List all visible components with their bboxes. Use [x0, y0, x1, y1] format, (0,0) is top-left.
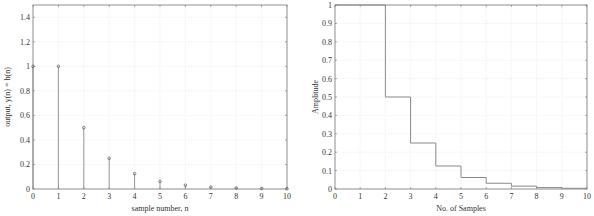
y-tick-label: 0.8: [322, 38, 332, 47]
x-tick-label: 10: [583, 192, 591, 201]
x-tick-label: 4: [133, 192, 137, 201]
x-tick-label: 6: [183, 192, 187, 201]
y-tick-label: 0.8: [20, 87, 30, 96]
x-tick-label: 8: [535, 192, 539, 201]
y-tick-label: 1.2: [20, 38, 30, 47]
y-tick-label: 0.4: [322, 111, 332, 120]
y-tick-label: 1: [328, 1, 332, 10]
x-tick-label: 5: [158, 192, 162, 201]
y-tick-label: 1.4: [20, 13, 30, 22]
y-tick-label: 0: [328, 185, 332, 194]
y-tick-label: 0.7: [322, 56, 332, 65]
x-tick-label: 0: [333, 192, 337, 201]
x-tick-label: 7: [209, 192, 213, 201]
x-tick-label: 3: [107, 192, 111, 201]
impulse-response-chart: 01234567891000.20.40.60.811.21.4sample n…: [3, 5, 291, 213]
y-tick-label: 0.4: [20, 136, 30, 145]
y-axis-label: output, y(n) = h(n): [3, 67, 12, 127]
y-tick-label: 1: [26, 62, 30, 71]
x-tick-label: 2: [82, 192, 86, 201]
charts-canvas: 01234567891000.20.40.60.811.21.4sample n…: [0, 0, 594, 216]
stem-marker: [57, 65, 60, 68]
x-axis-label: No. of Samples: [436, 204, 486, 213]
x-tick-label: 1: [358, 192, 362, 201]
x-tick-label: 9: [560, 192, 564, 201]
y-tick-label: 0.6: [322, 75, 332, 84]
x-tick-label: 1: [56, 192, 60, 201]
x-axis-label: sample number, n: [132, 204, 189, 213]
y-tick-label: 0: [26, 185, 30, 194]
y-tick-label: 0.5: [322, 93, 332, 102]
x-tick-label: 9: [260, 192, 264, 201]
y-tick-label: 0.2: [322, 148, 332, 157]
x-tick-label: 8: [234, 192, 238, 201]
x-tick-label: 10: [283, 192, 291, 201]
y-tick-label: 0.6: [20, 111, 30, 120]
step-chart: 01234567891000.10.20.30.40.50.60.70.80.9…: [311, 1, 591, 213]
y-axis-label: Amplitude: [311, 79, 320, 114]
x-tick-label: 5: [459, 192, 463, 201]
x-tick-label: 0: [31, 192, 35, 201]
x-tick-label: 6: [484, 192, 488, 201]
y-tick-label: 0.9: [322, 19, 332, 28]
x-tick-label: 3: [409, 192, 413, 201]
y-tick-label: 0.2: [20, 160, 30, 169]
x-tick-label: 2: [383, 192, 387, 201]
x-tick-label: 4: [434, 192, 438, 201]
y-tick-label: 0.3: [322, 130, 332, 139]
y-tick-label: 0.1: [322, 167, 332, 176]
x-tick-label: 7: [509, 192, 513, 201]
